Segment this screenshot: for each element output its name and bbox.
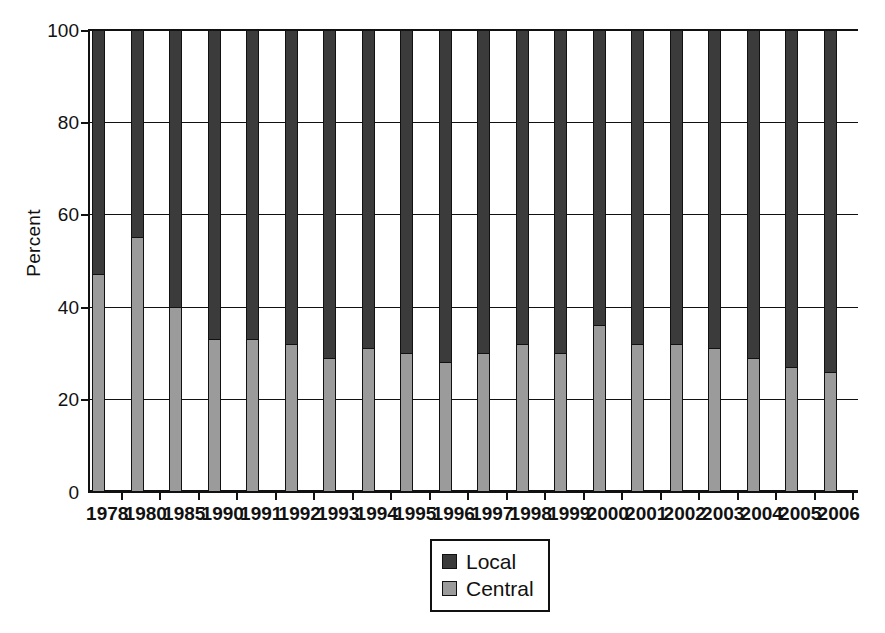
plot-area: 020406080100 197819801985199019911992199…: [88, 29, 858, 492]
bar-group: [362, 29, 375, 492]
bar-segment-central: [246, 339, 259, 492]
legend-swatch-icon: [442, 554, 457, 569]
bar-segment-central: [400, 353, 413, 492]
bar-group: [516, 29, 529, 492]
x-axis-tick-mark: [775, 492, 777, 500]
bar-segment-local: [285, 30, 298, 345]
bar-segment-local: [439, 30, 452, 363]
bar-segment-local: [708, 30, 721, 349]
bar-group: [439, 29, 452, 492]
x-axis-tick-label: 1985: [163, 503, 205, 525]
bar-segment-central: [477, 353, 490, 492]
x-axis-tick-label: 2005: [779, 503, 821, 525]
bar-segment-central: [824, 372, 837, 492]
bar-segment-central: [554, 353, 567, 492]
bar-group: [670, 29, 683, 492]
x-axis-tick-mark: [275, 492, 277, 500]
y-axis-tick-mark: [81, 214, 88, 216]
x-axis-tick-label: 2004: [741, 503, 783, 525]
bar-group: [554, 29, 567, 492]
bar-segment-local: [516, 30, 529, 345]
legend-item-label: Local: [466, 550, 516, 574]
bar-segment-central: [747, 358, 760, 492]
bar-group: [285, 29, 298, 492]
bar-group: [631, 29, 644, 492]
y-axis-tick-mark: [81, 122, 88, 124]
bar-segment-local: [593, 30, 606, 326]
bar-segment-local: [747, 30, 760, 359]
bar-segment-local: [323, 30, 336, 359]
x-axis-tick-mark: [621, 492, 623, 500]
bar-segment-central: [169, 307, 182, 492]
bar-series-container: [88, 29, 858, 492]
bar-segment-central: [362, 348, 375, 492]
x-axis-tick-mark: [429, 492, 431, 500]
x-axis-tick-label: 1996: [433, 503, 475, 525]
legend-swatch-icon: [442, 581, 457, 596]
bar-segment-local: [670, 30, 683, 345]
y-axis-tick-label: 20: [58, 389, 79, 411]
bar-segment-local: [631, 30, 644, 345]
bar-segment-local: [246, 30, 259, 340]
bar-segment-central: [131, 237, 144, 492]
legend-item: Central: [442, 575, 534, 602]
x-axis-tick-label: 1978: [86, 503, 128, 525]
bar-group: [785, 29, 798, 492]
bar-segment-local: [824, 30, 837, 373]
bar-segment-central: [631, 344, 644, 492]
x-axis-tick-mark: [544, 492, 546, 500]
bar-segment-local: [477, 30, 490, 354]
bar-segment-local: [208, 30, 221, 340]
bar-group: [208, 29, 221, 492]
bar-group: [708, 29, 721, 492]
bar-segment-local: [92, 30, 105, 275]
x-axis-tick-mark: [814, 492, 816, 500]
bar-segment-local: [131, 30, 144, 238]
y-axis-tick-label: 40: [58, 296, 79, 318]
x-axis-tick-label: 1994: [356, 503, 398, 525]
bar-segment-central: [516, 344, 529, 492]
y-axis-tick-label: 0: [68, 482, 79, 504]
x-axis-tick-mark: [198, 492, 200, 500]
chart-legend: LocalCentral: [430, 539, 550, 612]
x-axis-tick-mark: [583, 492, 585, 500]
x-axis-tick-mark: [660, 492, 662, 500]
x-axis-tick-mark: [121, 492, 123, 500]
bar-segment-central: [785, 367, 798, 492]
bar-group: [400, 29, 413, 492]
chart-figure: Percent 020406080100 1978198019851990199…: [0, 0, 885, 633]
y-axis-tick-mark: [81, 30, 88, 32]
y-axis-tick-label: 80: [58, 111, 79, 133]
x-axis-tick-label: 1993: [317, 503, 359, 525]
legend-item-label: Central: [466, 577, 534, 601]
gridline: 0: [88, 492, 858, 493]
bar-group: [747, 29, 760, 492]
bar-segment-local: [400, 30, 413, 354]
bar-group: [169, 29, 182, 492]
x-axis-tick-label: 1999: [548, 503, 590, 525]
x-axis-tick-mark: [506, 492, 508, 500]
x-axis-tick-mark: [698, 492, 700, 500]
bar-segment-local: [169, 30, 182, 308]
bar-group: [593, 29, 606, 492]
bar-segment-central: [439, 362, 452, 492]
y-axis-tick-label: 100: [47, 20, 79, 42]
bar-segment-local: [785, 30, 798, 368]
x-axis-tick-label: 1980: [125, 503, 167, 525]
x-axis-tick-label: 2002: [664, 503, 706, 525]
legend-item: Local: [442, 548, 534, 575]
bar-segment-central: [708, 348, 721, 492]
x-axis-tick-mark: [852, 492, 854, 500]
x-axis-tick-label: 1992: [279, 503, 321, 525]
x-axis-tick-label: 1998: [510, 503, 552, 525]
x-axis-tick-mark: [352, 492, 354, 500]
y-axis-title: Percent: [23, 183, 45, 303]
x-axis-tick-mark: [737, 492, 739, 500]
bar-group: [92, 29, 105, 492]
bar-segment-central: [323, 358, 336, 492]
x-axis-tick-label: 1995: [394, 503, 436, 525]
x-axis-tick-mark: [159, 492, 161, 500]
bar-group: [246, 29, 259, 492]
y-axis-tick-label: 60: [58, 204, 79, 226]
x-axis-tick-label: 2006: [818, 503, 860, 525]
